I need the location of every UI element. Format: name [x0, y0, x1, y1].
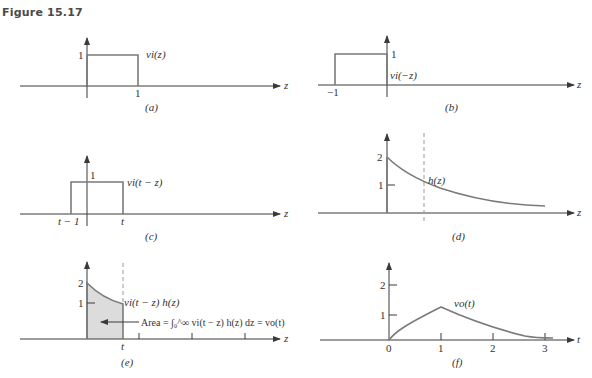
- shaded-area: [87, 283, 123, 339]
- axis-label-z: z: [283, 332, 289, 344]
- y-tick-2: 2: [380, 279, 386, 291]
- x-tick-3: 3: [542, 342, 548, 354]
- curve-label: vi(−z): [390, 69, 417, 82]
- caption-c: (c): [145, 230, 158, 243]
- area-annotation: Area = ∫₀^∞ vi(t − z) h(z) dz = vo(t): [141, 317, 285, 329]
- x-tick-minus-1: −1: [327, 86, 339, 98]
- caption-f: (f): [452, 356, 463, 369]
- y-tick-1: 1: [378, 179, 384, 191]
- caption-b: (b): [445, 101, 458, 114]
- y-tick-1: 1: [391, 48, 397, 60]
- caption-a: (a): [145, 101, 158, 114]
- axis-label-t: t: [577, 333, 581, 345]
- h-z-curve: [387, 157, 545, 206]
- y-tick-1: 1: [90, 169, 96, 181]
- vo-t-curve: [389, 307, 553, 340]
- panel-c: 1 t − 1 t vi(t − z) z (c): [20, 156, 289, 243]
- panel-d: 2 1 h(z) z (d): [318, 133, 582, 243]
- curve-label: vi(z): [146, 48, 166, 61]
- x-tick-t: t: [121, 215, 125, 227]
- x-tick-1: 1: [438, 342, 444, 354]
- vi-z-curve: [87, 55, 138, 86]
- curve-label: vi(t − z) h(z): [124, 296, 180, 309]
- curve-label: vi(t − z): [127, 176, 163, 189]
- x-tick-1: 1: [135, 87, 141, 99]
- x-tick-2: 2: [490, 342, 496, 354]
- x-tick-t-minus-1: t − 1: [58, 215, 79, 227]
- axis-label-z: z: [576, 206, 582, 218]
- x-tick-t: t: [121, 340, 125, 352]
- axis-label-z: z: [576, 78, 582, 90]
- y-tick-1: 1: [78, 297, 84, 309]
- y-tick-2: 2: [78, 277, 84, 289]
- curve-label: h(z): [428, 174, 445, 187]
- vi-minus-z-curve: [335, 54, 387, 85]
- panel-b: 1 −1 vi(−z) z (b): [318, 36, 582, 114]
- y-tick-2: 2: [377, 151, 383, 163]
- vi-t-minus-z-curve: [71, 182, 123, 214]
- y-tick-1: 1: [78, 49, 84, 61]
- caption-d: (d): [452, 230, 465, 243]
- panel-f: 2 1 0 1 2 3 vo(t) t (f): [320, 263, 581, 369]
- curve-label: vo(t): [454, 297, 475, 310]
- panel-e: 2 1 t vi(t − z) h(z) Area = ∫₀^∞ vi(t − …: [20, 262, 289, 369]
- panel-a: 1 1 vi(z) z (a): [20, 38, 289, 114]
- y-tick-1: 1: [380, 309, 386, 321]
- caption-e: (e): [121, 356, 134, 369]
- axis-label-z: z: [283, 79, 289, 91]
- axis-label-z: z: [283, 207, 289, 219]
- x-tick-0: 0: [386, 342, 392, 354]
